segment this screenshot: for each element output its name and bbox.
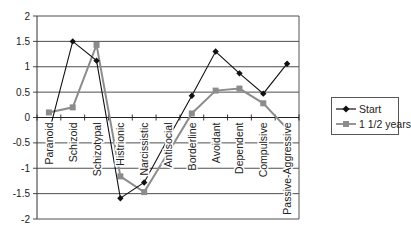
legend-item-start: Start <box>335 102 381 116</box>
square-marker-icon <box>213 88 219 94</box>
category-label: Paranoid <box>43 122 55 164</box>
category-label: Borderline <box>186 122 198 170</box>
category-label: Histrionic <box>114 123 126 166</box>
y-axis-labels: 21.510.50-0.5-1-1.5-2 <box>13 11 31 225</box>
diamond-marker-icon <box>335 102 357 116</box>
x-axis <box>37 115 299 121</box>
category-label: Passive-Aggressive <box>281 122 293 214</box>
y-tick-label: 0.5 <box>16 87 30 98</box>
y-tick-label: -2 <box>21 214 30 225</box>
diamond-marker-icon <box>117 195 123 201</box>
square-marker-icon <box>117 173 123 179</box>
y-tick-label: 1.5 <box>16 36 30 47</box>
category-label: Avoidant <box>210 122 222 163</box>
square-marker-icon <box>189 110 195 116</box>
y-tick-label: 1 <box>24 61 30 72</box>
diamond-marker-icon <box>189 92 195 98</box>
category-label: Dependent <box>233 122 245 173</box>
square-marker-icon <box>335 117 357 131</box>
legend: Start 1 1/2 years <box>331 97 399 135</box>
y-tick-label: 0 <box>24 112 30 123</box>
diamond-marker-icon <box>141 179 147 185</box>
category-label: Schizoid <box>67 122 79 162</box>
category-label: Schizotypal <box>91 123 103 177</box>
category-label: Compulsive <box>257 122 269 177</box>
square-marker-icon <box>236 86 242 92</box>
y-tick-label: -1.5 <box>13 188 31 199</box>
square-marker-icon <box>94 42 100 48</box>
y-tick-label: -0.5 <box>13 137 31 148</box>
legend-item-1-5-years: 1 1/2 years <box>335 117 411 131</box>
legend-label-start: Start <box>359 103 381 115</box>
square-marker-icon <box>70 104 76 110</box>
category-label: Antisocial <box>162 123 174 168</box>
square-marker-icon <box>46 109 52 115</box>
series-lines <box>46 38 290 201</box>
y-tick-label: -1 <box>21 163 30 174</box>
square-marker-icon <box>141 189 147 195</box>
square-marker-icon <box>260 100 266 106</box>
category-label: Narcissistic <box>138 123 150 176</box>
y-tick-label: 2 <box>24 11 30 22</box>
legend-label-1-5-years: 1 1/2 years <box>359 118 411 130</box>
